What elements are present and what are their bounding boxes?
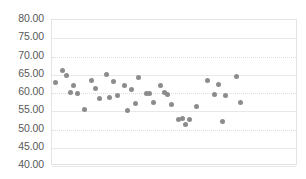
data-point (183, 122, 188, 127)
data-point (115, 93, 120, 98)
data-point (53, 80, 58, 85)
gridline (52, 57, 296, 58)
data-point (89, 78, 94, 83)
gridline (52, 38, 296, 39)
data-point (169, 102, 174, 107)
data-point (111, 79, 116, 84)
y-axis: 80.0075.0070.0065.0060.0055.0050.0045.00… (0, 0, 48, 179)
data-point (60, 68, 65, 73)
data-point (129, 87, 134, 92)
y-axis-tick-label: 55.00 (18, 104, 44, 115)
gridline (52, 75, 296, 76)
plot-area (51, 19, 297, 165)
data-point (205, 78, 210, 83)
data-point (180, 116, 185, 121)
data-point (158, 83, 163, 88)
scatter-chart: 80.0075.0070.0065.0060.0055.0050.0045.00… (0, 0, 306, 179)
data-point (64, 73, 69, 78)
y-axis-tick-label: 50.00 (18, 123, 44, 134)
data-point (165, 92, 170, 97)
data-point (97, 96, 102, 101)
y-axis-tick-label: 75.00 (18, 31, 44, 42)
data-point (75, 91, 80, 96)
data-point (93, 86, 98, 91)
data-point (212, 92, 217, 97)
data-point (151, 100, 156, 105)
y-axis-tick-label: 40.00 (18, 159, 44, 170)
data-point (68, 90, 73, 95)
data-point (220, 119, 225, 124)
data-point (238, 100, 243, 105)
gridline (52, 111, 296, 112)
y-axis-tick-label: 80.00 (18, 13, 44, 24)
data-point (194, 104, 199, 109)
gridline (52, 148, 296, 149)
data-point (71, 83, 76, 88)
y-axis-tick-label: 60.00 (18, 86, 44, 97)
gridline (52, 130, 296, 131)
data-point (122, 83, 127, 88)
data-point (133, 101, 138, 106)
gridline (52, 166, 296, 167)
data-point (187, 117, 192, 122)
data-point (136, 75, 141, 80)
data-point (216, 82, 221, 87)
gridline (52, 93, 296, 94)
y-axis-tick-label: 70.00 (18, 50, 44, 61)
data-point (223, 93, 228, 98)
data-point (234, 74, 239, 79)
data-point (107, 95, 112, 100)
y-axis-tick-label: 45.00 (18, 141, 44, 152)
data-point (125, 108, 130, 113)
y-axis-tick-label: 65.00 (18, 68, 44, 79)
data-point (147, 91, 152, 96)
data-point (104, 72, 109, 77)
